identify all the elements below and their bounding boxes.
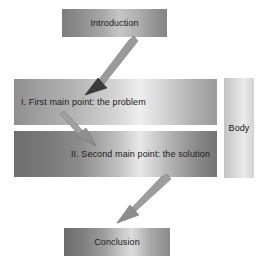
conclusion-box: Conclusion — [64, 228, 170, 256]
arrow-second-point-to-conclusion-head-icon — [117, 205, 139, 223]
introduction-label: Introduction — [90, 18, 138, 28]
diagram-canvas: Introduction I. First main point: the pr… — [0, 0, 276, 271]
introduction-box: Introduction — [62, 9, 167, 37]
arrow-second-point-to-conclusion-icon — [117, 174, 171, 223]
second-main-point-label: II. Second main point: the solution — [71, 149, 210, 159]
first-main-point-label: I. First main point: the problem — [21, 97, 146, 107]
conclusion-label: Conclusion — [94, 237, 140, 247]
second-main-point-box: II. Second main point: the solution — [14, 131, 217, 177]
body-bracket-bar: Body — [224, 78, 254, 178]
first-main-point-box: I. First main point: the problem — [14, 79, 217, 125]
body-bracket-label: Body — [229, 123, 250, 133]
